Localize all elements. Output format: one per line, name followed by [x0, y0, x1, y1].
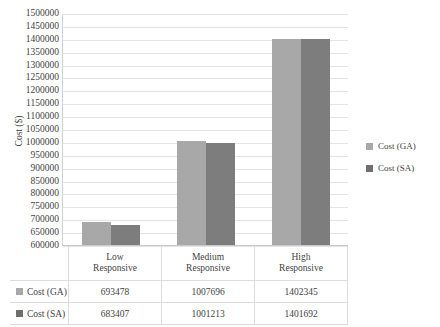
- table-column-header: HighResponsive: [255, 246, 348, 281]
- y-axis-tick-label: 1200000: [26, 87, 59, 97]
- table-cell-value: 693478: [69, 281, 162, 303]
- table-row-key: Cost (GA): [10, 281, 69, 303]
- chart-legend: Cost (GA)Cost (SA): [366, 141, 440, 173]
- table-cell-value: 1001213: [162, 303, 255, 325]
- table-swatch-sa: [16, 310, 23, 317]
- y-axis-tick-label: 800000: [31, 190, 60, 200]
- y-axis-tick-label: 650000: [31, 228, 60, 238]
- legend-swatch-ga: [366, 143, 373, 150]
- y-axis-tick-label: 1100000: [26, 112, 59, 122]
- table-cell-value: 1007696: [162, 281, 255, 303]
- category-label-line2: Responsive: [255, 263, 347, 274]
- table-swatch-ga: [16, 288, 23, 295]
- y-axis-tick-label: 1050000: [26, 125, 59, 135]
- y-axis-tick-label: 750000: [31, 203, 60, 213]
- table-row-label: Cost (SA): [27, 309, 65, 319]
- y-axis-title: Cost ($): [12, 96, 26, 166]
- y-axis-tick-label: 1350000: [26, 48, 59, 58]
- bar-group: [63, 14, 158, 246]
- bar-sa[interactable]: [206, 143, 235, 246]
- table-row-key: Cost (SA): [10, 303, 69, 325]
- y-axis-tick-label: 1450000: [26, 22, 59, 32]
- bar-ga[interactable]: [177, 141, 206, 246]
- y-axis-tick-label: 700000: [31, 215, 60, 225]
- y-axis-tick-label: 850000: [31, 177, 60, 187]
- y-axis-title-label: Cost ($): [14, 116, 24, 147]
- table-row: Cost (GA)69347810076961402345: [10, 281, 348, 303]
- y-axis-tick-label: 1250000: [26, 74, 59, 84]
- table-column-header: LowResponsive: [69, 246, 162, 281]
- table-cell-value: 683407: [69, 303, 162, 325]
- bar-group: [253, 14, 348, 246]
- table-row-label: Cost (GA): [27, 287, 67, 297]
- y-axis-tick-label: 1400000: [26, 35, 59, 45]
- legend-item[interactable]: Cost (SA): [366, 163, 440, 173]
- legend-swatch-sa: [366, 165, 373, 172]
- bar-ga[interactable]: [272, 39, 301, 246]
- table-row: Cost (SA)68340710012131401692: [10, 303, 348, 325]
- y-axis-tick-label: 1300000: [26, 61, 59, 71]
- table-cell-value: 1401692: [255, 303, 348, 325]
- bar-group: [158, 14, 253, 246]
- plot-area: 1500000145000014000001350000130000012500…: [62, 14, 348, 246]
- bar-groups: [63, 14, 348, 246]
- table-header-row: LowResponsiveMediumResponsiveHighRespons…: [10, 246, 348, 281]
- legend-item-label: Cost (GA): [378, 141, 416, 151]
- y-axis-tick-label: 900000: [31, 164, 60, 174]
- bar-chart-figure: Cost ($) 1500000145000014000001350000130…: [0, 0, 440, 327]
- category-label-line1: High: [255, 252, 347, 263]
- y-axis-tick-label: 950000: [31, 151, 60, 161]
- bar-sa[interactable]: [111, 225, 140, 247]
- table-cell-value: 1402345: [255, 281, 348, 303]
- legend-item[interactable]: Cost (GA): [366, 141, 440, 151]
- category-label-line2: Responsive: [162, 263, 254, 274]
- y-axis-tick-label: 1000000: [26, 138, 59, 148]
- category-label-line1: Low: [69, 252, 161, 263]
- y-axis-tick-label: 1150000: [26, 99, 59, 109]
- legend-item-label: Cost (SA): [378, 163, 414, 173]
- y-axis-tick-label: 1500000: [26, 9, 59, 19]
- table-corner-cell: [10, 246, 69, 281]
- bar-ga[interactable]: [82, 222, 111, 246]
- bar-sa[interactable]: [301, 39, 330, 246]
- table-column-header: MediumResponsive: [162, 246, 255, 281]
- data-table: LowResponsiveMediumResponsiveHighRespons…: [10, 246, 348, 325]
- category-label-line1: Medium: [162, 252, 254, 263]
- category-label-line2: Responsive: [69, 263, 161, 274]
